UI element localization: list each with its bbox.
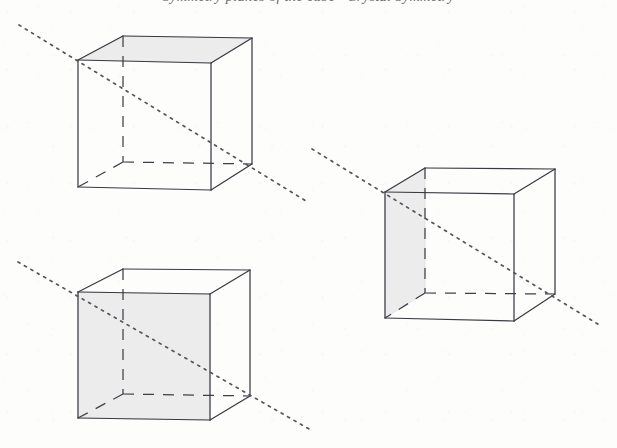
cube-top-left-shaded-face	[78, 36, 252, 63]
cube-right	[312, 149, 601, 326]
cube-bottom-left	[18, 262, 309, 429]
cube-top-left	[19, 25, 306, 201]
cube-right-symmetry-line	[312, 149, 601, 326]
cube-right-shaded-face	[385, 168, 425, 318]
cube-symmetry-figure	[0, 0, 617, 448]
figure-page: Symmetry planes of the cube · Crystal Sy…	[0, 0, 617, 448]
cube-bottom-left-shaded-face	[78, 292, 210, 420]
